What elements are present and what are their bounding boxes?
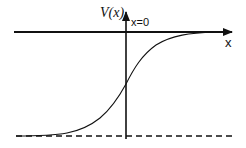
diagram-canvas — [0, 0, 246, 148]
y-axis-label: V(x) — [100, 6, 124, 20]
potential-diagram: V(x) x=0 x — [0, 0, 246, 148]
potential-curve — [16, 32, 215, 136]
origin-marker-label: x=0 — [131, 17, 149, 28]
x-axis-label: x — [225, 36, 232, 49]
